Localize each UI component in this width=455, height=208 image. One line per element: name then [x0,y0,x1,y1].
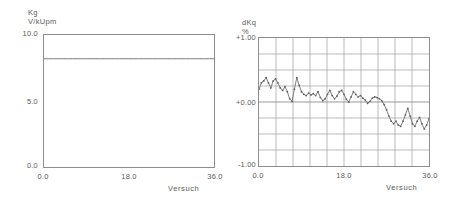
dkq-chart-gridlines [259,38,429,166]
kg-chart-xtick-18: 18.0 [113,172,145,181]
figure-sheet: Kg V/kUpm 10.0 5.0 0.0 0.0 18.0 36.0 Ver… [0,0,455,208]
dkq-chart-plot-area [258,37,430,167]
dkq-chart-ytick-minus1: -1.00 [224,160,256,169]
kg-chart-x-axis-label: Versuch [168,184,199,193]
dkq-chart-svg [259,38,429,166]
dkq-chart-xtick-36: 36.0 [414,171,446,180]
dkq-chart-ytick-zero: +0.00 [224,98,256,107]
dkq-chart-xtick-18: 18.0 [328,171,360,180]
dkq-chart-panel: dKq % +1.00 +0.00 -1.00 0.0 18.0 36.0 Ve… [228,0,455,208]
kg-chart-y-axis-label: Kg V/kUpm [28,8,56,26]
kg-chart-svg [44,35,214,167]
dkq-chart-x-axis-label: Versuch [386,183,417,192]
kg-chart-y-axis-label-line1: Kg [28,8,38,17]
dkq-chart-xtick-0: 0.0 [242,171,274,180]
kg-chart-ytick-5: 5.0 [6,97,38,106]
kg-chart-xtick-36: 36.0 [199,172,231,181]
kg-chart-y-axis-label-line2: V/kUpm [28,17,56,26]
kg-chart-ytick-10: 10.0 [6,29,38,38]
dkq-chart-y-axis-label-line1: dKq [242,18,256,27]
kg-chart-ytick-0: 0.0 [6,161,38,170]
kg-chart-xtick-0: 0.0 [27,172,59,181]
kg-chart-plot-area [43,34,215,168]
kg-chart-panel: Kg V/kUpm 10.0 5.0 0.0 0.0 18.0 36.0 Ver… [0,0,227,208]
dkq-chart-ytick-plus1: +1.00 [224,33,256,42]
